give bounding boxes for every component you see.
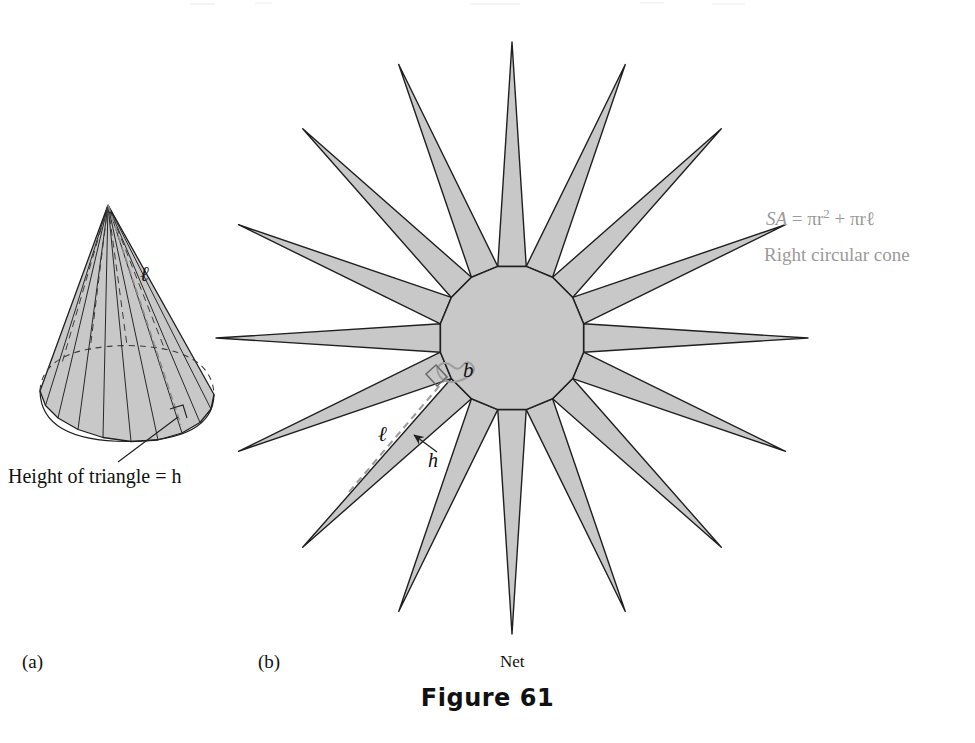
net-diagram [216,42,808,634]
net-caption: Net [500,653,525,670]
part-label-a: (a) [22,652,43,671]
formula-term-one: πr2 [807,208,829,229]
part-label-b: (b) [258,652,280,671]
net-spike [303,379,472,548]
figure-number: Figure 61 [0,686,975,710]
net-spike [584,324,808,352]
formula-term-two: πrℓ [850,208,875,229]
formula-equals: = [792,208,803,229]
net-spike [303,129,472,298]
cone-diagram [40,205,214,462]
formula-caption: Right circular cone [764,245,910,264]
net-slant-label: ℓ [378,424,387,445]
net-base-label: b [463,360,474,381]
figure-page: ℓ Height of triangle = h b ℓ h SA = πr2 … [0,0,975,743]
formula-exponent: 2 [823,206,829,221]
formula-sa-symbol: SA [766,208,787,229]
net-spike [553,129,722,298]
figure-canvas [0,0,975,743]
net-height-label: h [428,450,438,470]
cone-body [40,205,214,442]
net-spike [216,324,440,352]
cone-slant-label: ℓ [140,264,149,285]
surface-area-formula: SA = πr2 + πrℓ [766,208,875,228]
net-spike [498,410,526,634]
net-core-polygon [440,266,583,409]
net-spike [553,379,722,548]
formula-plus: + [834,208,845,229]
cone-height-callout: Height of triangle = h [8,466,181,486]
scan-artifact [190,3,745,4]
net-spike [498,42,526,266]
